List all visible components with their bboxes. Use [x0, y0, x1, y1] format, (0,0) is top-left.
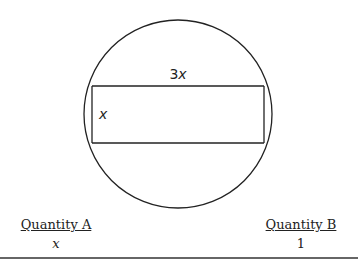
- left-side-label: x: [98, 106, 108, 122]
- quantity-b-value: 1: [250, 236, 352, 251]
- geometry-figure: 3x x: [0, 0, 358, 210]
- divider: [0, 257, 358, 259]
- quantity-a: Quantity A x: [10, 217, 102, 251]
- quantity-b: Quantity B 1: [250, 217, 352, 251]
- circle: [84, 20, 272, 208]
- top-side-label: 3x: [169, 66, 187, 82]
- quantity-b-heading: Quantity B: [250, 217, 352, 232]
- quantity-a-value: x: [10, 236, 102, 251]
- quantity-a-heading: Quantity A: [10, 217, 102, 232]
